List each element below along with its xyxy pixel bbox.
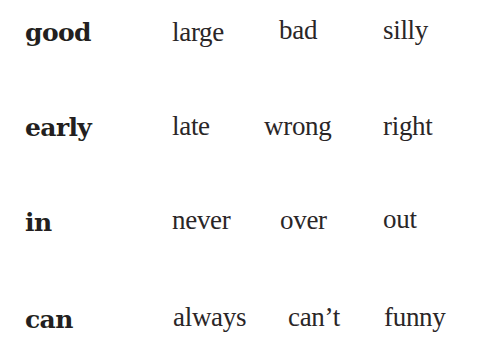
option-word: over [280, 207, 327, 234]
option-word: late [172, 113, 210, 140]
option-word: can’t [288, 304, 340, 331]
key-word-in: in [25, 210, 51, 235]
option-word: always [173, 304, 246, 331]
option-word: right [383, 113, 433, 140]
key-word-early: early [25, 115, 91, 140]
option-word: large [172, 19, 224, 46]
option-word: silly [383, 17, 428, 44]
option-word: never [172, 207, 230, 234]
option-word: funny [384, 304, 446, 331]
key-word-can: can [25, 307, 73, 332]
option-word: wrong [264, 113, 332, 140]
option-word: out [383, 206, 417, 233]
option-word: bad [279, 17, 317, 44]
key-word-good: good [25, 20, 91, 45]
